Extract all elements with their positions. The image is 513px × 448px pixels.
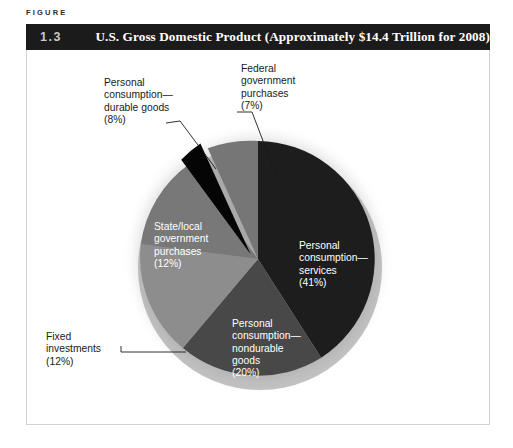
label-fixed-investments: Fixed investments (12%) <box>46 331 101 368</box>
label-durable-goods: Personal consumption— durable goods (8%) <box>104 77 173 126</box>
label-nondurable-goods: Personal consumption— nondurable goods (… <box>232 318 301 379</box>
figure-kicker: FIGURE <box>26 8 68 17</box>
figure-title-bar: 1.3 U.S. Gross Domestic Product (Approxi… <box>26 24 490 50</box>
label-state-local: State/local government purchases (12%) <box>154 221 208 270</box>
figure-number: 1.3 <box>26 30 95 44</box>
label-services: Personal consumption— services (41%) <box>299 240 368 289</box>
label-federal-purchases: Federal government purchases (7%) <box>241 63 295 112</box>
page-title: U.S. Gross Domestic Product (Approximate… <box>95 29 490 45</box>
